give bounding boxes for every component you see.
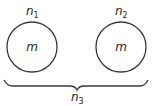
brace-label-base: n	[71, 90, 79, 104]
circle-node-2: m n2	[96, 4, 146, 72]
grouping-brace: n3	[4, 80, 148, 106]
circle-2-top-label-subscript: 2	[123, 11, 128, 20]
brace-path	[4, 80, 148, 90]
brace-label-subscript: 3	[79, 97, 84, 106]
brace-label: n3	[71, 90, 84, 106]
diagram-canvas: m n1 m n2 n3	[0, 0, 157, 106]
circle-node-1: m n1	[7, 4, 57, 72]
circle-2-top-label: n2	[115, 4, 128, 20]
circle-1-top-label-subscript: 1	[34, 11, 39, 20]
circle-1-top-label: n1	[26, 4, 39, 20]
circle-1-center-label: m	[26, 40, 38, 54]
circle-1-top-label-base: n	[26, 4, 34, 18]
circle-2-top-label-base: n	[115, 4, 123, 18]
circle-2-center-label: m	[115, 40, 127, 54]
